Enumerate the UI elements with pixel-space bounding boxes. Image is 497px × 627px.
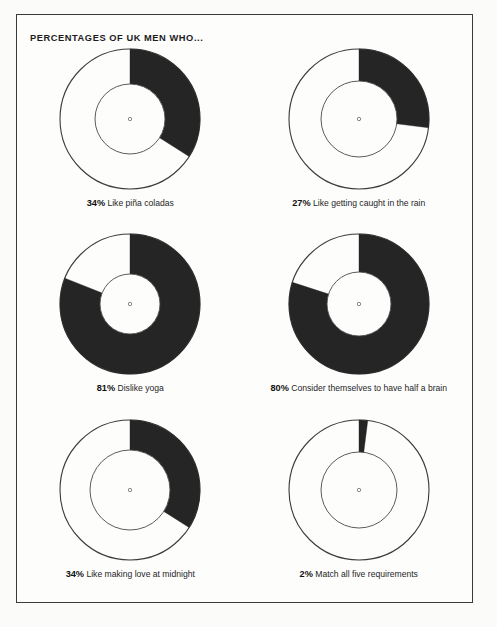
donut-center-dot-icon xyxy=(357,488,360,491)
donut-graphic-all-five-requirements xyxy=(286,417,432,563)
donut-svg-caught-in-the-rain xyxy=(286,46,432,192)
donut-center-dot-icon xyxy=(129,303,132,306)
page-title: PERCENTAGES OF UK MEN WHO... xyxy=(30,33,203,43)
donut-svg-half-a-brain xyxy=(286,231,432,377)
donut-chart-caught-in-the-rain: 27% Like getting caught in the rain xyxy=(245,46,474,231)
donut-graphic-caught-in-the-rain xyxy=(286,46,432,192)
donut-caption-caught-in-the-rain: 27% Like getting caught in the rain xyxy=(292,198,425,208)
donut-description-label: Consider themselves to have half a brain xyxy=(289,383,447,393)
donut-svg-all-five-requirements xyxy=(286,417,432,563)
donut-graphic-dislike-yoga xyxy=(57,231,203,377)
donut-percent-label: 2% xyxy=(300,569,313,579)
donut-percent-label: 81% xyxy=(97,383,115,393)
donut-description-label: Dislike yoga xyxy=(115,383,164,393)
donut-caption-love-at-midnight: 34% Like making love at midnight xyxy=(66,569,195,579)
infographic-page: PERCENTAGES OF UK MEN WHO... 34% Like pi… xyxy=(0,0,497,627)
donut-chart-love-at-midnight: 34% Like making love at midnight xyxy=(16,417,245,602)
donut-center-dot-icon xyxy=(129,117,132,120)
donut-caption-all-five-requirements: 2% Match all five requirements xyxy=(300,569,418,579)
donut-percent-label: 27% xyxy=(292,198,310,208)
donut-caption-half-a-brain: 80% Consider themselves to have half a b… xyxy=(270,383,447,393)
donut-description-label: Match all five requirements xyxy=(313,569,418,579)
donut-graphic-pina-coladas xyxy=(57,46,203,192)
donut-description-label: Like piña coladas xyxy=(105,198,174,208)
donut-caption-pina-coladas: 34% Like piña coladas xyxy=(87,198,174,208)
donut-graphic-half-a-brain xyxy=(286,231,432,377)
donut-center-dot-icon xyxy=(357,303,360,306)
donut-description-label: Like making love at midnight xyxy=(84,569,195,579)
donut-svg-pina-coladas xyxy=(57,46,203,192)
donut-center-dot-icon xyxy=(357,117,360,120)
donut-chart-pina-coladas: 34% Like piña coladas xyxy=(16,46,245,231)
donut-description-label: Like getting caught in the rain xyxy=(311,198,426,208)
donut-percent-label: 34% xyxy=(66,569,84,579)
donut-percent-label: 34% xyxy=(87,198,105,208)
donut-caption-dislike-yoga: 81% Dislike yoga xyxy=(97,383,164,393)
donut-graphic-love-at-midnight xyxy=(57,417,203,563)
donut-svg-dislike-yoga xyxy=(57,231,203,377)
donut-chart-all-five-requirements: 2% Match all five requirements xyxy=(245,417,474,602)
donut-chart-grid: 34% Like piña coladas27% Like getting ca… xyxy=(16,46,473,602)
donut-center-dot-icon xyxy=(129,488,132,491)
donut-percent-label: 80% xyxy=(270,383,288,393)
donut-svg-love-at-midnight xyxy=(57,417,203,563)
donut-chart-half-a-brain: 80% Consider themselves to have half a b… xyxy=(245,231,474,416)
donut-chart-dislike-yoga: 81% Dislike yoga xyxy=(16,231,245,416)
